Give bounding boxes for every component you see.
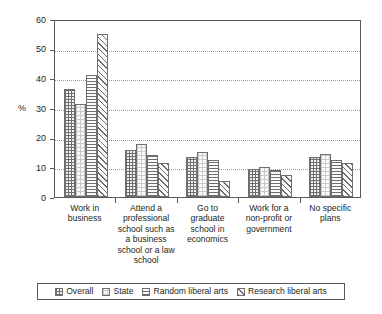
bar	[86, 75, 97, 197]
bar	[270, 170, 281, 197]
chart-legend: OverallStateRandom liberal artsResearch …	[37, 283, 345, 300]
x-label-line: Work for a	[238, 203, 299, 213]
y-tick-label: 40	[24, 75, 46, 84]
bar	[320, 154, 331, 197]
bar	[248, 169, 259, 197]
bar	[197, 152, 208, 197]
y-tick-mark	[50, 198, 54, 199]
x-label-line: graduate	[177, 213, 238, 223]
bar	[158, 163, 169, 197]
y-tick-label: 60	[24, 16, 46, 25]
bar	[147, 155, 158, 197]
bar	[125, 150, 136, 197]
x-label-line: business	[54, 213, 115, 223]
x-label-line: Go to	[177, 203, 238, 213]
x-axis-labels: Work inbusinessAttend aprofessionalschoo…	[54, 203, 361, 273]
x-category-label: Work for anon-profit orgovernment	[238, 203, 299, 234]
bar	[219, 181, 230, 197]
y-tick-label: 30	[24, 105, 46, 114]
bar	[97, 34, 108, 197]
plot-area	[54, 20, 361, 198]
bar	[75, 104, 86, 197]
legend-swatch-icon	[102, 288, 110, 296]
x-label-line: school	[115, 255, 176, 265]
x-category-label: No specificplans	[300, 203, 361, 224]
bar	[331, 160, 342, 197]
legend-swatch-icon	[55, 288, 63, 296]
bar-group	[301, 21, 362, 197]
x-label-line: school in	[177, 224, 238, 234]
legend-label: State	[113, 287, 133, 296]
bar	[64, 89, 75, 197]
bar-group	[55, 21, 116, 197]
legend-label: Research liberal arts	[248, 287, 327, 296]
bar	[309, 157, 320, 197]
x-label-line: a business	[115, 234, 176, 244]
x-label-line: professional	[115, 213, 176, 223]
x-label-line: Work in	[54, 203, 115, 213]
x-label-line: non-profit or	[238, 213, 299, 223]
x-category-label: Go tograduateschool ineconomics	[177, 203, 238, 245]
x-label-line: school such as	[115, 224, 176, 234]
x-label-line: school or a law	[115, 245, 176, 255]
bar	[259, 167, 270, 197]
legend-label: Random liberal arts	[153, 287, 228, 296]
bar	[281, 175, 292, 197]
bar	[186, 157, 197, 197]
y-tick-label: 10	[24, 164, 46, 173]
bar-group	[239, 21, 300, 197]
bar	[342, 163, 353, 197]
x-label-line: No specific	[300, 203, 361, 213]
x-label-line: economics	[177, 234, 238, 244]
x-label-line: Attend a	[115, 203, 176, 213]
x-label-line: plans	[300, 213, 361, 223]
x-category-label: Work inbusiness	[54, 203, 115, 224]
legend-item[interactable]: State	[102, 287, 133, 296]
y-tick-label: 20	[24, 134, 46, 143]
y-tick-label: 50	[24, 45, 46, 54]
x-label-line: government	[238, 224, 299, 234]
bar	[208, 160, 219, 197]
legend-item[interactable]: Overall	[55, 287, 93, 296]
bar-group	[178, 21, 239, 197]
bar	[136, 144, 147, 197]
legend-swatch-icon	[237, 288, 245, 296]
bar-chart: % 0102030405060 Work inbusinessAttend ap…	[0, 0, 382, 314]
bar-group	[116, 21, 177, 197]
x-category-label: Attend aprofessionalschool such asa busi…	[115, 203, 176, 265]
legend-swatch-icon	[142, 288, 150, 296]
y-tick-label: 0	[24, 194, 46, 203]
legend-item[interactable]: Research liberal arts	[237, 287, 327, 296]
legend-item[interactable]: Random liberal arts	[142, 287, 228, 296]
legend-label: Overall	[66, 287, 93, 296]
